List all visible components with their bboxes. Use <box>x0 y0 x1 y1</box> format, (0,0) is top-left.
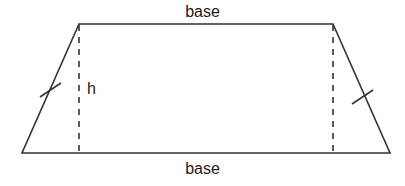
label-base-bottom: base <box>0 161 405 177</box>
congruence-tick-left-icon <box>40 83 61 97</box>
trapezoid-canvas <box>0 0 405 186</box>
trapezoid-figure: base base h <box>0 0 405 186</box>
trapezoid-outline <box>22 24 390 153</box>
label-base-top: base <box>0 4 405 20</box>
label-height: h <box>87 81 96 97</box>
